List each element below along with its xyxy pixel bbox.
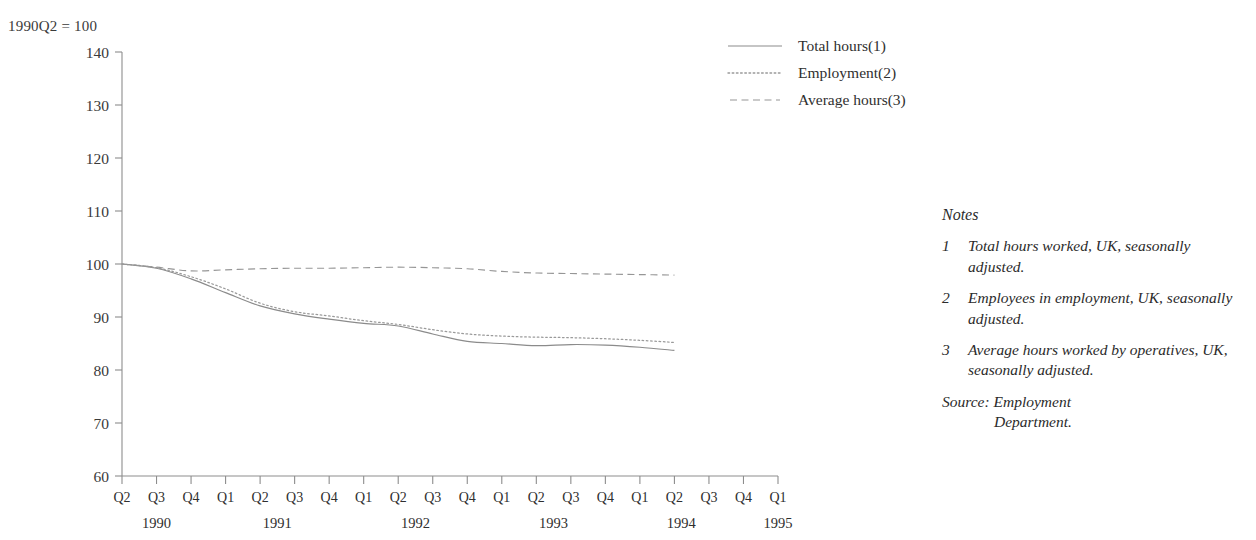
x-axis-tick-label: Q1 [355, 490, 372, 505]
x-axis-tick-label: Q1 [631, 490, 648, 505]
series-line-average-hours [122, 264, 674, 275]
y-axis-tick-label: 120 [86, 150, 110, 167]
y-axis-tick-label: 80 [94, 362, 110, 379]
x-axis-tick-label: Q4 [597, 490, 614, 505]
x-axis-tick-label: Q4 [182, 490, 199, 505]
x-axis-tick-label: Q4 [321, 490, 338, 505]
note-number: 2 [942, 288, 968, 329]
legend-label-average-hours: Average hours(3) [784, 91, 906, 109]
x-axis-tick-label: Q1 [769, 490, 786, 505]
x-axis-year-label: 1994 [667, 515, 697, 531]
y-axis-tick-label: 130 [86, 97, 110, 114]
legend-item-employment: Employment(2) [726, 59, 986, 86]
x-axis-tick-label: Q2 [528, 490, 545, 505]
note-item: 2 Employees in employment, UK, seasonall… [942, 288, 1242, 329]
solid-line-icon [726, 40, 784, 52]
chart-page: 1990Q2 = 100 60708090100110120130140 Q2Q… [0, 0, 1256, 540]
y-axis-tick-label: 70 [94, 415, 110, 432]
note-text: Employees in employment, UK, seasonally … [968, 288, 1242, 329]
legend-item-average-hours: Average hours(3) [726, 86, 986, 113]
y-axis-tick-label: 60 [94, 468, 110, 485]
x-axis-year-label: 1995 [764, 515, 793, 531]
chart-axes [122, 52, 778, 476]
x-axis-tick-label: Q4 [459, 490, 476, 505]
note-number: 3 [942, 340, 968, 381]
y-axis-tick-label: 140 [86, 44, 110, 61]
series-line-total-hours [122, 264, 674, 350]
x-axis-tick-label: Q2 [113, 490, 130, 505]
x-axis-tick-label: Q1 [493, 490, 510, 505]
note-text: Average hours worked by operatives, UK, … [968, 340, 1242, 381]
x-axis-year-label: 1993 [539, 515, 568, 531]
x-axis-tick-label: Q2 [390, 490, 407, 505]
y-axis-tick-label: 110 [86, 203, 109, 220]
x-axis-tick-label: Q4 [735, 490, 752, 505]
note-text: Total hours worked, UK, seasonally adjus… [968, 236, 1242, 277]
chart-area: 60708090100110120130140 Q2Q3Q4Q1Q2Q3Q4Q1… [0, 0, 830, 540]
x-axis-year-label: 1992 [401, 515, 430, 531]
note-number: 1 [942, 236, 968, 277]
y-axis-tick-labels: 60708090100110120130140 [86, 44, 110, 485]
dotted-line-icon [726, 67, 784, 79]
dashed-line-icon [726, 94, 784, 106]
notes-heading: Notes [942, 205, 1242, 224]
notes-panel: Notes 1 Total hours worked, UK, seasonal… [942, 205, 1242, 433]
x-axis-tick-label: Q3 [700, 490, 717, 505]
source-line: Source: Employment Department. [942, 392, 1242, 433]
x-axis-year-label: 1990 [142, 515, 171, 531]
legend-label-employment: Employment(2) [784, 64, 896, 82]
x-axis-tick-label: Q3 [286, 490, 303, 505]
x-axis-year-label: 1991 [263, 515, 292, 531]
chart-legend: Total hours(1) Employment(2) Average hou… [726, 32, 986, 113]
legend-label-total-hours: Total hours(1) [784, 37, 886, 55]
note-item: 3 Average hours worked by operatives, UK… [942, 340, 1242, 381]
x-axis-year-labels: 199019911992199319941995 [142, 515, 792, 531]
x-axis-tick-label: Q2 [252, 490, 269, 505]
legend-item-total-hours: Total hours(1) [726, 32, 986, 59]
y-axis-tick-label: 100 [86, 256, 110, 273]
y-axis-tick-label: 90 [94, 309, 110, 326]
line-chart-svg: 60708090100110120130140 Q2Q3Q4Q1Q2Q3Q4Q1… [0, 0, 830, 540]
source-label: Source: Employment [942, 393, 1071, 410]
x-axis-tick-label: Q2 [666, 490, 683, 505]
chart-series [122, 264, 674, 350]
x-axis-tick-label: Q3 [424, 490, 441, 505]
x-axis-tick-label: Q1 [217, 490, 234, 505]
x-axis-tick-label: Q3 [562, 490, 579, 505]
x-axis-tick-labels: Q2Q3Q4Q1Q2Q3Q4Q1Q2Q3Q4Q1Q2Q3Q4Q1Q2Q3Q4Q1 [113, 490, 786, 505]
source-continuation: Department. [942, 412, 1242, 432]
x-axis-tick-label: Q3 [148, 490, 165, 505]
series-line-employment [122, 264, 674, 342]
note-item: 1 Total hours worked, UK, seasonally adj… [942, 236, 1242, 277]
